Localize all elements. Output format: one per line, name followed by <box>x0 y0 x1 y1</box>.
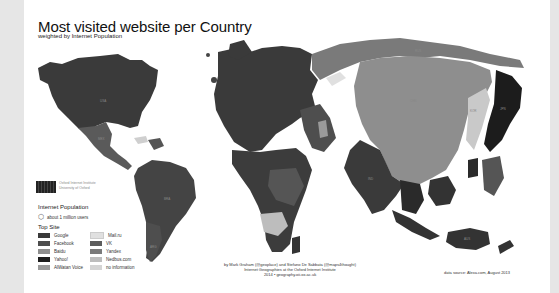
legend-label: Facebook <box>54 241 74 246</box>
legend-item-yandex: Yandex <box>90 249 140 254</box>
legend-label: Google <box>54 233 69 238</box>
legend-item-alwatan: AlWatan Voice <box>38 265 88 270</box>
legend-swatch <box>90 265 102 270</box>
credit-line3: 2014 • geography.oii.ox.ac.uk <box>200 272 380 277</box>
institute-name: Oxford Internet Institute University of … <box>59 181 96 191</box>
legend-label: no information <box>106 265 135 270</box>
top-site-legend-title: Top Site <box>38 224 60 230</box>
legend-swatch <box>38 241 50 246</box>
oii-logo <box>36 181 56 193</box>
label-chn: CHN <box>410 99 417 103</box>
label-rus: RUS <box>415 49 421 53</box>
population-legend-label: about 1 million users <box>47 215 88 220</box>
label-kor: KOR <box>470 109 477 113</box>
region-caribbean-2 <box>148 138 164 150</box>
legend-item-google: Google <box>38 233 88 238</box>
label-aus: AUS <box>464 237 470 241</box>
label-usa: USA <box>100 99 106 103</box>
legend-swatch <box>38 233 50 238</box>
label-jpn: JPN <box>500 107 506 111</box>
legend-swatch <box>90 241 102 246</box>
region-argentina <box>146 222 162 262</box>
region-europe <box>214 46 318 152</box>
legend-swatch <box>38 257 50 262</box>
hexagon-cluster-icon: ⬡ <box>38 213 44 221</box>
legend-label: Mail.ru <box>108 233 122 238</box>
legend-swatch <box>90 232 104 239</box>
region-south-asia <box>400 180 424 214</box>
legend-item-baidu: Baidu <box>38 249 88 254</box>
region-philippines <box>482 156 504 196</box>
legend-label: Yandex <box>106 249 121 254</box>
data-source: data source: Alexa.com, August 2013 <box>444 270 510 275</box>
legend-swatch <box>90 249 102 254</box>
region-nz <box>498 240 514 254</box>
region-indonesia <box>392 210 440 240</box>
legend-label: Yahoo! <box>54 257 68 262</box>
region-north-america <box>38 54 158 134</box>
legend-item-nedbus: Nedbus.com <box>90 257 140 262</box>
region-taiwan <box>468 158 478 178</box>
region-madagascar <box>292 236 300 254</box>
label-arg: ARG <box>150 245 157 249</box>
label-ind: IND <box>368 177 374 181</box>
legend-swatch <box>90 257 102 262</box>
population-legend-title: Internet Population <box>38 204 88 210</box>
legend-item-facebook: Facebook <box>38 241 88 246</box>
legend-item-vk: VK <box>90 241 140 246</box>
population-legend-item: ⬡ about 1 million users <box>38 213 88 221</box>
legend-item-no-info: no information <box>90 265 140 270</box>
legend-label: AlWatan Voice <box>54 265 83 270</box>
region-mexico <box>78 122 132 170</box>
top-site-legend: Google Mail.ru Facebook VK Baidu Yandex … <box>38 233 140 270</box>
label-bra: BRA <box>164 197 170 201</box>
region-caribbean <box>134 136 148 144</box>
label-mex: MEX <box>98 137 105 141</box>
region-se-asia <box>428 176 456 206</box>
credit-block: by Mark Graham (@geoplace) and Stefano D… <box>200 262 380 277</box>
legend-label: VK <box>106 241 112 246</box>
institute-line2: University of Oxford <box>59 186 96 191</box>
legend-item-mailru: Mail.ru <box>90 233 140 238</box>
legend-swatch <box>38 249 50 254</box>
legend-item-yahoo: Yahoo! <box>38 257 88 262</box>
region-south-america <box>134 160 196 262</box>
region-middle-east <box>300 104 336 152</box>
legend-swatch <box>38 265 50 270</box>
legend-label: Nedbus.com <box>106 257 131 262</box>
legend-label: Baidu <box>54 249 66 254</box>
